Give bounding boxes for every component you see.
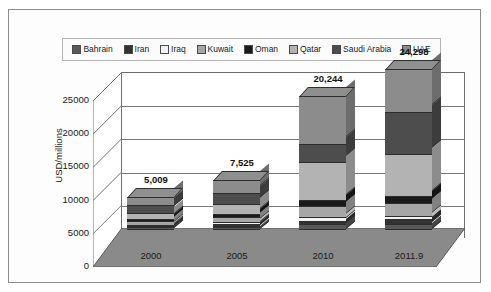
bar-stack <box>385 69 432 230</box>
legend-label: Bahrain <box>83 45 112 54</box>
legend-swatch-icon <box>197 45 206 54</box>
chart-3d-box: 5,0097,52520,24424,298 2000200520102011.… <box>93 72 465 277</box>
y-tick-label: 0 <box>45 261 89 271</box>
legend-label: Qatar <box>300 45 321 54</box>
bar-stack <box>127 197 174 230</box>
legend-swatch-icon <box>72 45 81 54</box>
x-tick-label: 2005 <box>197 250 277 261</box>
bar-segment-saudi-arabia <box>385 113 432 155</box>
bar-side-face <box>346 87 355 221</box>
bar-segment-uae <box>127 197 174 207</box>
legend-entry-iran[interactable]: Iran <box>124 45 150 54</box>
legend-label: Kuwait <box>208 45 234 54</box>
bar-total-label: 7,525 <box>207 157 277 168</box>
bar-segment-bahrain <box>385 225 432 230</box>
caption-fragment <box>14 0 344 3</box>
bar-segment-uae <box>213 180 260 194</box>
bar-total-label: 20,244 <box>293 73 363 84</box>
bar-segment-saudi-arabia <box>127 206 174 213</box>
plot-area: USD/millions 2500020000150001000050000 <box>31 72 471 277</box>
bar-side-face <box>432 60 441 221</box>
bar-top-face <box>127 188 174 197</box>
bar-segment-bahrain <box>127 228 174 229</box>
bar-stack <box>299 96 346 230</box>
bar-column-2000[interactable]: 5,009 <box>127 197 174 230</box>
bar-column-2011.9[interactable]: 24,298 <box>385 69 432 230</box>
x-tick-label: 2010 <box>283 250 363 261</box>
bar-segment-uae <box>385 69 432 113</box>
legend-entry-qatar[interactable]: Qatar <box>289 45 321 54</box>
y-tick-label: 10000 <box>45 195 89 205</box>
legend-swatch-icon <box>244 45 253 54</box>
bar-column-2010[interactable]: 20,244 <box>299 96 346 230</box>
legend-swatch-icon <box>160 45 169 54</box>
bar-segment-bahrain <box>213 228 260 230</box>
legend-entry-iraq[interactable]: Iraq <box>160 45 186 54</box>
bar-segment-kuwait <box>385 204 432 217</box>
legend-entry-kuwait[interactable]: Kuwait <box>197 45 234 54</box>
bar-segment-qatar <box>213 205 260 215</box>
legend-label: Iraq <box>171 45 186 54</box>
y-tick-label: 5000 <box>45 228 89 238</box>
bar-segment-qatar <box>385 155 432 197</box>
legend-label: Iran <box>135 45 150 54</box>
bar-series-container: 5,0097,52520,24424,298 <box>121 72 465 239</box>
bar-segment-bahrain <box>299 225 346 230</box>
legend-entry-oman[interactable]: Oman <box>244 45 278 54</box>
bar-segment-oman <box>385 197 432 204</box>
legend-swatch-icon <box>332 45 341 54</box>
y-tick-label: 20000 <box>45 128 89 138</box>
legend-swatch-icon <box>124 45 133 54</box>
legend-label: Oman <box>255 45 278 54</box>
bar-column-2005[interactable]: 7,525 <box>213 180 260 230</box>
legend-entry-bahrain[interactable]: Bahrain <box>72 45 112 54</box>
bar-total-label: 5,009 <box>121 174 191 185</box>
bar-top-face <box>213 171 260 180</box>
bar-segment-uae <box>299 96 346 145</box>
bar-top-face <box>299 87 346 96</box>
bar-segment-saudi-arabia <box>213 194 260 205</box>
bar-segment-qatar <box>299 163 346 201</box>
legend-swatch-icon <box>289 45 298 54</box>
figure-frame: BahrainIranIraqKuwaitOmanQatarSaudi Arab… <box>8 9 481 283</box>
bar-stack <box>213 180 260 230</box>
y-axis-ticks: 2500020000150001000050000 <box>43 72 89 277</box>
x-tick-label: 2000 <box>111 250 191 261</box>
x-tick-label: 2011.9 <box>369 250 449 261</box>
bar-segment-kuwait <box>299 207 346 218</box>
y-tick-label: 15000 <box>45 161 89 171</box>
bar-top-face <box>385 60 432 69</box>
bar-segment-saudi-arabia <box>299 145 346 164</box>
y-tick-label: 25000 <box>45 95 89 105</box>
bar-total-label: 24,298 <box>379 46 449 57</box>
